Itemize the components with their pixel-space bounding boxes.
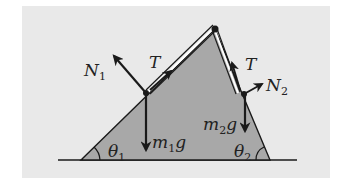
T2-label: T xyxy=(245,54,258,74)
T1-label: T xyxy=(149,52,162,72)
inclined-plane-diagram: N1 T m1g θ1 T N2 m2g θ2 xyxy=(0,0,351,194)
pulley-icon xyxy=(212,26,219,33)
